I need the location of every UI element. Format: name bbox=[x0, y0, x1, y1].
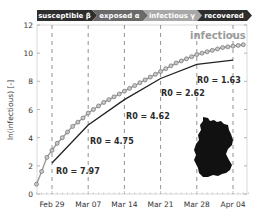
r0-label-5: R0 = 1.63 bbox=[197, 76, 241, 85]
data-point bbox=[97, 104, 101, 108]
x-tick-label: Mar 21 bbox=[148, 200, 174, 209]
data-point bbox=[143, 78, 147, 82]
data-point bbox=[102, 100, 106, 104]
y-tick-label: 4 bbox=[28, 134, 33, 143]
seir-stage-header: susceptible βexposed αinfectious γrecove… bbox=[37, 10, 252, 21]
infectious-series-label: infectious bbox=[190, 30, 246, 41]
y-tick-label: 12 bbox=[23, 21, 33, 30]
stage-label: susceptible β bbox=[38, 12, 91, 20]
y-tick-label: 10 bbox=[23, 49, 33, 58]
y-tick-label: 8 bbox=[28, 77, 33, 86]
r0-label-4: R0 = 2.62 bbox=[161, 89, 205, 98]
data-point bbox=[241, 43, 245, 47]
r0-label-2: R0 = 4.75 bbox=[90, 137, 134, 146]
data-point bbox=[45, 155, 49, 159]
data-point bbox=[210, 48, 214, 52]
y-tick-label: 2 bbox=[28, 162, 33, 171]
data-point bbox=[190, 55, 194, 59]
stage-label: recovered bbox=[204, 12, 244, 20]
data-point bbox=[86, 111, 90, 115]
data-point bbox=[215, 47, 219, 51]
data-point bbox=[55, 141, 59, 145]
data-point bbox=[91, 108, 95, 112]
stage-infectious: infectious γ bbox=[143, 10, 202, 21]
data-point bbox=[133, 84, 137, 88]
r0-label-3: R0 = 4.62 bbox=[126, 112, 170, 121]
data-point bbox=[148, 75, 152, 79]
stage-recovered: recovered bbox=[197, 10, 252, 21]
data-point bbox=[138, 81, 142, 85]
data-point bbox=[195, 53, 199, 57]
y-axis-label: ln(infectious) [-] bbox=[6, 80, 15, 140]
stage-label: exposed α bbox=[99, 12, 139, 20]
data-point bbox=[221, 46, 225, 50]
data-point bbox=[71, 124, 75, 128]
data-point bbox=[159, 69, 163, 73]
data-point bbox=[226, 45, 230, 49]
data-point bbox=[184, 57, 188, 61]
data-point bbox=[60, 136, 64, 140]
y-tick-label: 0 bbox=[28, 190, 33, 199]
data-point bbox=[236, 43, 240, 47]
data-point bbox=[117, 92, 121, 96]
data-point bbox=[205, 50, 209, 54]
data-point bbox=[164, 67, 168, 71]
stage-label: infectious γ bbox=[149, 12, 195, 20]
r0-label-1: R0 = 7.97 bbox=[56, 167, 100, 176]
data-point bbox=[50, 148, 54, 152]
data-point bbox=[107, 98, 111, 102]
data-point bbox=[128, 86, 132, 90]
data-point bbox=[112, 95, 116, 99]
x-tick-label: Feb 29 bbox=[39, 200, 64, 209]
x-tick-label: Apr 04 bbox=[221, 200, 246, 209]
data-point bbox=[66, 130, 70, 134]
x-tick-label: Mar 28 bbox=[184, 200, 210, 209]
data-point bbox=[153, 72, 157, 76]
data-point bbox=[34, 182, 38, 186]
data-point bbox=[179, 59, 183, 63]
x-tick-label: Mar 14 bbox=[111, 200, 137, 209]
chart: susceptible βexposed αinfectious γrecove… bbox=[0, 0, 261, 219]
data-point bbox=[169, 64, 173, 68]
data-point bbox=[200, 51, 204, 55]
data-point bbox=[76, 120, 80, 124]
data-point bbox=[174, 61, 178, 65]
data-point bbox=[231, 44, 235, 48]
data-point bbox=[81, 116, 85, 120]
y-tick-label: 6 bbox=[28, 106, 33, 115]
x-tick-label: Mar 07 bbox=[75, 200, 101, 209]
stage-exposed: exposed α bbox=[92, 10, 148, 21]
stage-susceptible: susceptible β bbox=[37, 10, 97, 21]
data-point bbox=[40, 169, 44, 173]
data-point bbox=[122, 89, 126, 93]
